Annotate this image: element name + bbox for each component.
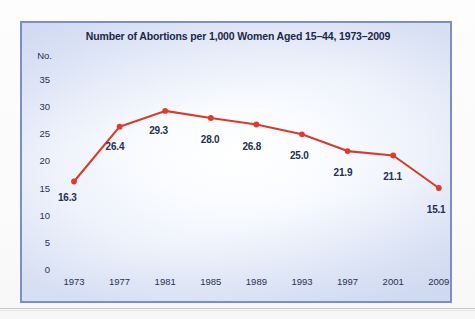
data-point-marker <box>162 108 168 114</box>
data-point-label: 16.3 <box>58 192 77 203</box>
data-point-marker <box>117 124 123 130</box>
page-horizontal-rule-secondary <box>0 310 475 311</box>
data-point-label: 29.3 <box>149 125 168 136</box>
data-point-label: 15.1 <box>427 204 446 215</box>
data-point-marker <box>390 153 396 159</box>
line-plot <box>22 23 452 303</box>
data-point-marker <box>345 148 351 154</box>
scanned-page: Number of Abortions per 1,000 Women Aged… <box>0 0 475 319</box>
data-point-marker <box>299 131 305 137</box>
data-point-label: 26.4 <box>106 141 125 152</box>
data-point-marker <box>254 122 260 128</box>
data-point-marker <box>436 185 442 191</box>
data-point-label: 26.8 <box>242 141 261 152</box>
page-horizontal-rule <box>0 308 475 309</box>
data-point-marker <box>71 179 77 185</box>
data-point-label: 21.9 <box>334 167 353 178</box>
data-point-label: 28.0 <box>201 134 220 145</box>
data-point-marker <box>208 115 214 121</box>
data-point-label: 21.1 <box>383 171 402 182</box>
chart-panel: Number of Abortions per 1,000 Women Aged… <box>20 21 452 303</box>
data-point-label: 25.0 <box>290 150 309 161</box>
